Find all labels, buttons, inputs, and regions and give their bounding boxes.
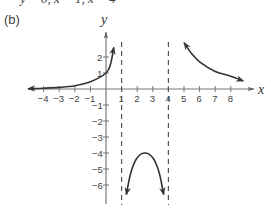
x-tick-label: 7 [212, 93, 217, 104]
y-axis-label: y [99, 12, 108, 27]
x-tick-label: 2 [134, 93, 139, 104]
x-tick-label: −4 [38, 93, 49, 104]
rational-function-graph: xy−4−3−2−11234567821−1−2−3−4−5−6 [0, 0, 271, 216]
x-tick-label: 5 [181, 93, 186, 104]
y-tick-label: −1 [92, 100, 103, 111]
curve-branch-2 [126, 153, 163, 195]
x-tick-label: 8 [228, 93, 233, 104]
x-tick-label: −2 [69, 93, 80, 104]
y-tick-label: −4 [92, 148, 103, 159]
x-tick-label: 3 [150, 93, 155, 104]
x-tick-label: 6 [197, 93, 202, 104]
x-tick-label: −3 [53, 93, 64, 104]
y-tick-label: −3 [92, 132, 103, 143]
y-tick-label: 2 [97, 52, 102, 63]
y-tick-label: −2 [92, 116, 103, 127]
curve-branch-3 [184, 43, 243, 81]
y-tick-label: −6 [92, 180, 103, 191]
x-axis-label: x [257, 82, 265, 97]
y-tick-label: −5 [92, 164, 103, 175]
